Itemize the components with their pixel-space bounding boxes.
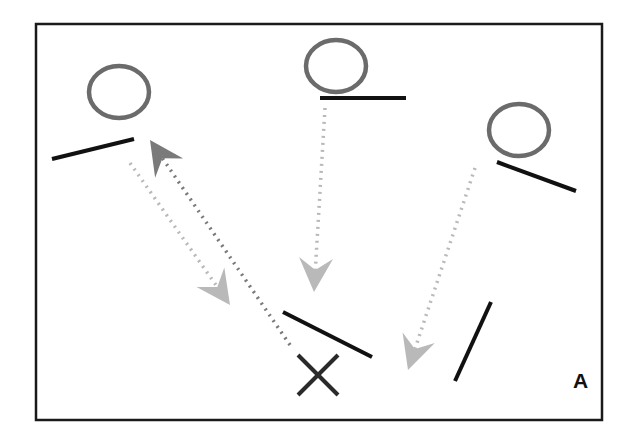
center-low-bar: [283, 312, 372, 357]
x-marker-icon: [298, 355, 338, 395]
bars-group: [52, 98, 576, 381]
panel-label: A: [573, 369, 588, 393]
arrowhead-icon: [403, 332, 435, 370]
right-bar: [497, 162, 576, 191]
circle-middle: [306, 40, 366, 92]
circle-left: [89, 66, 149, 118]
arrowhead-icon: [197, 267, 230, 305]
right-low-bar: [455, 302, 491, 381]
arrow-middle-down: [299, 108, 333, 292]
arrow-left-up: [150, 140, 290, 345]
arrows-group: [130, 108, 475, 370]
arrowhead-icon: [150, 140, 183, 178]
circles-group: [89, 40, 549, 156]
diagram-frame: [36, 24, 602, 420]
circle-right: [489, 104, 549, 156]
arrow-right-down: [403, 168, 475, 370]
left-bar: [52, 139, 134, 159]
diagram-canvas: [0, 0, 633, 434]
